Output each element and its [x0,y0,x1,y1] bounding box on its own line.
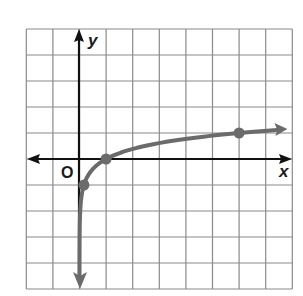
x-axis-label: x [278,162,290,181]
coordinate-graph: y x O [0,0,303,296]
graph-point [234,128,245,139]
graph-point [101,154,112,165]
origin-label: O [61,164,73,181]
log-curve [73,123,287,289]
graph-point [78,180,89,191]
y-axis-label: y [87,31,99,50]
